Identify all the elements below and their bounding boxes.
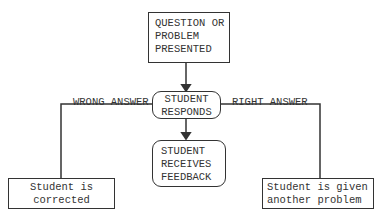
node-text: QUESTION OR bbox=[155, 17, 229, 30]
node-text: STUDENT bbox=[161, 145, 225, 158]
node-text: corrected bbox=[9, 194, 114, 207]
wrong-answer-label: WRONG ANSWER bbox=[73, 96, 149, 108]
wrong-answer-line bbox=[61, 104, 152, 178]
node-text: FEEDBACK bbox=[161, 171, 225, 184]
right-answer-label: RIGHT ANSWER bbox=[232, 96, 308, 108]
student-responds-box: STUDENT RESPONDS bbox=[152, 91, 221, 119]
node-text: another problem bbox=[267, 194, 373, 207]
node-text: Student is given bbox=[267, 181, 373, 194]
node-text: PROBLEM bbox=[155, 30, 229, 43]
node-text: RECEIVES bbox=[161, 158, 225, 171]
node-text: PRESENTED bbox=[155, 43, 229, 56]
question-presented-box: QUESTION OR PROBLEM PRESENTED bbox=[148, 12, 230, 63]
student-another-problem-box: Student is given another problem bbox=[262, 178, 374, 209]
flowchart: QUESTION OR PROBLEM PRESENTED STUDENT RE… bbox=[0, 0, 389, 220]
node-text: STUDENT bbox=[153, 93, 220, 106]
node-text: RESPONDS bbox=[153, 106, 220, 119]
right-answer-line bbox=[220, 104, 320, 178]
student-corrected-box: Student is corrected bbox=[8, 178, 115, 209]
student-receives-feedback-box: STUDENT RECEIVES FEEDBACK bbox=[152, 140, 226, 187]
node-text: Student is bbox=[9, 181, 114, 194]
